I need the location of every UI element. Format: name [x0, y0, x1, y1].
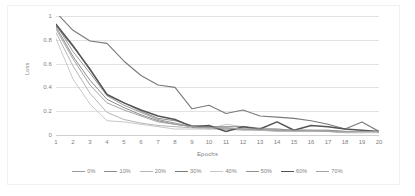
x-axis-tick-label: 1 [54, 139, 57, 145]
y-axis-tick-label: 0.6 [43, 61, 52, 67]
x-axis-tick-label: 11 [223, 139, 229, 145]
y-axis-tick-label: 0.4 [43, 84, 52, 90]
legend-item-20pct[interactable]: 20% [140, 168, 166, 174]
legend-line-swatch [104, 171, 117, 172]
x-axis-tick-label: 9 [190, 139, 193, 145]
chart-legend: 0%10%20%30%40%50%60%70% [0, 168, 415, 174]
x-axis-tick-label: 17 [325, 139, 332, 145]
legend-item-10pct[interactable]: 10% [104, 168, 130, 174]
x-axis-tick-label: 2 [71, 139, 74, 145]
x-axis-tick-label: 5 [122, 139, 125, 145]
series-line-40pct [56, 39, 379, 133]
series-line-30pct [56, 16, 379, 131]
y-axis-tick-label: 0.8 [43, 37, 52, 43]
series-line-60pct [56, 24, 379, 131]
x-axis-tick-label: 18 [342, 139, 349, 145]
legend-label: 60% [296, 168, 307, 174]
y-axis-tick-label: 1 [49, 13, 52, 19]
legend-line-swatch [281, 171, 294, 172]
legend-line-swatch [140, 171, 153, 172]
legend-line-swatch [210, 171, 223, 172]
legend-item-30pct[interactable]: 30% [175, 168, 201, 174]
legend-item-70pct[interactable]: 70% [316, 168, 342, 174]
legend-label: 70% [331, 168, 342, 174]
x-axis-line [56, 135, 379, 136]
legend-item-0pct[interactable]: 0% [72, 168, 95, 174]
x-axis-tick-label: 10 [206, 139, 213, 145]
x-axis-tick-label: 13 [257, 139, 264, 145]
x-axis-tick-label: 8 [173, 139, 176, 145]
x-axis-tick-label: 4 [105, 139, 108, 145]
x-axis-tick-label: 19 [359, 139, 366, 145]
series-lines [56, 16, 379, 135]
x-axis-tick-label: 6 [139, 139, 142, 145]
x-axis-tick-labels: 1234567891011121314151617181920 [56, 139, 379, 151]
legend-line-swatch [316, 171, 329, 172]
legend-line-swatch [246, 171, 259, 172]
legend-label: 50% [261, 168, 272, 174]
y-axis-tick-label: 0.2 [43, 108, 52, 114]
legend-label: 0% [87, 168, 95, 174]
series-line-0pct [56, 24, 379, 132]
x-axis-tick-label: 16 [308, 139, 315, 145]
legend-item-40pct[interactable]: 40% [210, 168, 236, 174]
legend-label: 20% [155, 168, 166, 174]
x-axis-tick-label: 20 [376, 139, 383, 145]
y-axis-tick-labels: 00.20.40.60.81 [30, 16, 52, 135]
y-axis-tick-label: 0 [49, 132, 52, 138]
x-axis-title: Epochs [0, 151, 415, 157]
series-line-50pct [56, 26, 379, 132]
x-axis-tick-label: 12 [240, 139, 247, 145]
plot-area [56, 16, 379, 135]
legend-item-60pct[interactable]: 60% [281, 168, 307, 174]
chart-figure: Loss 00.20.40.60.81 12345678910111213141… [0, 0, 415, 196]
x-axis-tick-label: 15 [291, 139, 298, 145]
x-axis-tick-label: 7 [156, 139, 159, 145]
legend-label: 10% [119, 168, 130, 174]
legend-item-50pct[interactable]: 50% [246, 168, 272, 174]
legend-line-swatch [72, 171, 85, 172]
series-line-70pct [56, 29, 379, 131]
legend-label: 30% [190, 168, 201, 174]
x-axis-tick-label: 14 [274, 139, 281, 145]
x-axis-tick-label: 3 [88, 139, 91, 145]
legend-label: 40% [225, 168, 236, 174]
legend-line-swatch [175, 171, 188, 172]
